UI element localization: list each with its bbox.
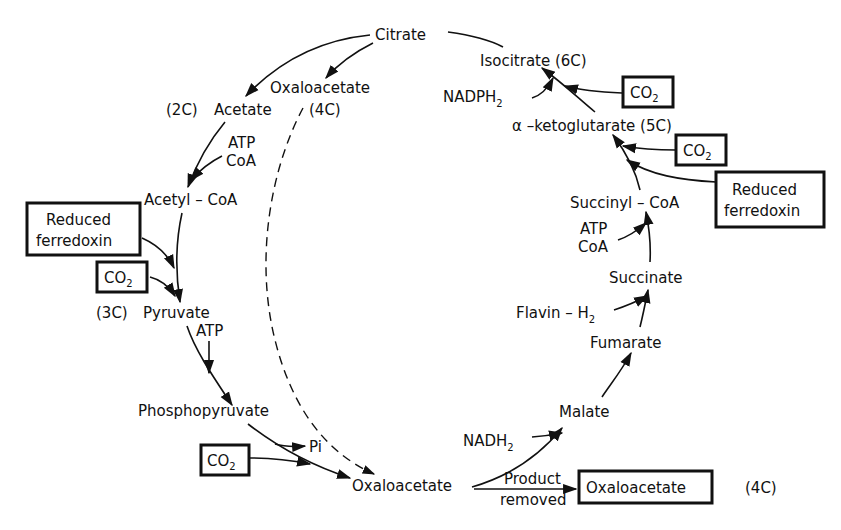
line-isocitrate-citrate [448, 32, 503, 47]
ferredoxin-right-line2: ferredoxin [724, 202, 800, 220]
arrow-co2-isocitrate [565, 86, 622, 93]
label-nadph2: NADPH2 [443, 88, 503, 109]
ferredoxin-left-line2: ferredoxin [36, 232, 112, 250]
label-pyruvate: Pyruvate [143, 304, 210, 322]
label-citrate: Citrate [375, 26, 426, 44]
label-alpha-ketoglutarate: α –ketoglutarate (5C) [512, 117, 672, 135]
arrow-atp-coa-right [618, 223, 646, 240]
label-oxaloacetate-top-carbon: (4C) [309, 101, 341, 119]
label-oxaloacetate-bottom: Oxaloacetate [352, 477, 452, 495]
arrow-nadh2 [532, 433, 562, 437]
arrow-co2-pyruvate [150, 277, 175, 296]
label-atp-left: ATP [228, 134, 255, 152]
label-coa-left: CoA [226, 152, 257, 170]
label-pyruvate-carbon: (3C) [96, 304, 128, 322]
label-coa-right: CoA [578, 238, 609, 256]
ferredoxin-left-line1: Reduced [46, 211, 111, 229]
arrow-citrate-to-oxaloacetate [326, 43, 373, 78]
label-flavin-h2: Flavin – H2 [516, 304, 595, 325]
label-acetyl-coa: Acetyl – CoA [144, 191, 238, 209]
arrow-co2-oxaloacetate [250, 458, 310, 464]
label-phosphopyruvate: Phosphopyruvate [138, 402, 269, 420]
label-oxaloacetate-top: Oxaloacetate [270, 79, 370, 97]
label-succinyl-coa: Succinyl – CoA [570, 194, 680, 212]
oxaloacetate-product-label: Oxaloacetate [586, 479, 686, 497]
arrow-succinylcoa-to-akg [613, 135, 640, 190]
label-malate: Malate [559, 403, 610, 421]
arrow-fumarate-to-succinate [640, 290, 648, 327]
label-succinate: Succinate [609, 269, 683, 287]
arrow-flavin-h2 [614, 296, 647, 310]
arrow-malate-to-fumarate [602, 353, 631, 397]
label-acetate-carbon: (2C) [166, 101, 198, 119]
ferredoxin-right-line1: Reduced [732, 181, 797, 199]
oxaloacetate-product-carbon: (4C) [745, 479, 777, 497]
label-isocitrate: Isocitrate (6C) [480, 52, 587, 70]
product-removed-line2: removed [500, 491, 566, 509]
product-removed-line1: Product [504, 470, 561, 488]
label-nadh2: NADH2 [463, 432, 514, 453]
arrow-co2-akg [623, 146, 676, 150]
label-atp-right: ATP [580, 220, 607, 238]
label-pi: Pi [309, 438, 322, 456]
label-fumarate: Fumarate [590, 334, 662, 352]
arrow-acetylcoa-to-pyruvate [177, 213, 182, 302]
dashed-arrow-oxaloacetate-regeneration [266, 108, 374, 474]
reductive-tca-cycle-diagram: Citrate Isocitrate (6C) α –ketoglutarate… [0, 0, 841, 530]
label-atp-pyruvate: ATP [196, 322, 223, 340]
label-acetate: Acetate [214, 101, 272, 119]
arrow-succinate-to-succinylcoa [646, 212, 650, 262]
arrow-nadph2 [532, 78, 553, 98]
arrow-phosphopyruvate-to-oxaloacetate [248, 424, 350, 478]
